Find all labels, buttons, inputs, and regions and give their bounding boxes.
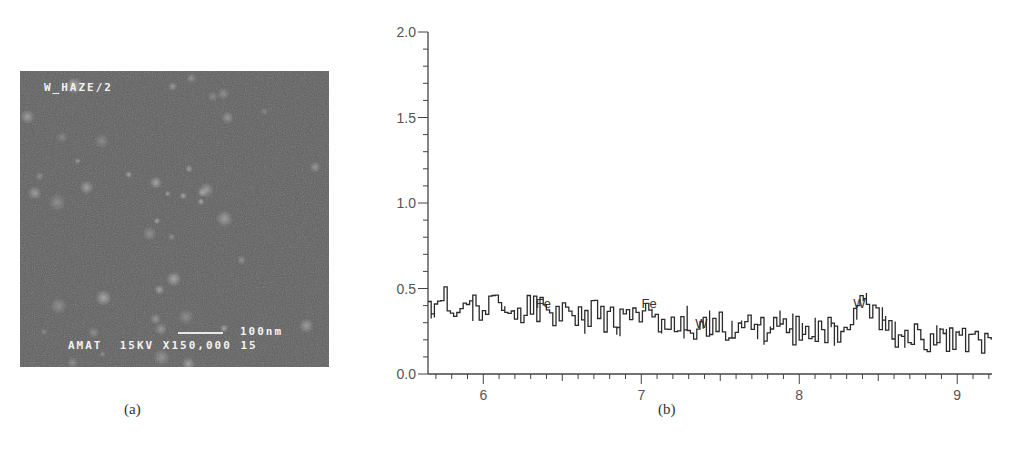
y-tick-label: 1.5 (397, 110, 417, 126)
spectrum-trace (428, 287, 991, 353)
x-tick-label: 8 (795, 387, 803, 403)
peak-label-fe: Fe (642, 296, 657, 311)
x-tick-label: 7 (637, 387, 645, 403)
chart-axes: 0.00.51.01.52.06789 (397, 24, 992, 403)
peak-label-w: W (695, 316, 708, 331)
x-tick-label: 9 (953, 387, 961, 403)
caption-b: (b) (658, 401, 676, 418)
peak-label-fe: Fe (536, 296, 551, 311)
y-tick-label: 0.0 (397, 366, 417, 382)
peak-label-w: W (853, 296, 866, 311)
y-tick-label: 1.0 (397, 195, 417, 211)
x-tick-label: 6 (479, 387, 487, 403)
y-tick-label: 0.5 (397, 281, 417, 297)
y-tick-label: 2.0 (397, 24, 417, 40)
eds-spectrum-chart: 0.00.51.01.52.06789 FeFeWW (0, 0, 1023, 451)
